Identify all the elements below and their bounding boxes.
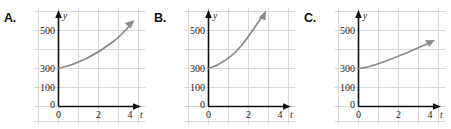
panel-a: A. — [0, 0, 150, 129]
y-tick-0: 0 — [50, 99, 55, 110]
x-tick-0: 0 — [356, 109, 361, 120]
panel-b-plot: 500 300 100 0 0 2 4 y t — [184, 7, 296, 125]
x-axis-label: t — [440, 110, 443, 120]
y-tick-100: 100 — [190, 82, 205, 93]
x-tick-4: 4 — [428, 109, 433, 120]
x-axis-arrowhead — [283, 103, 291, 109]
y-tick-300: 300 — [190, 63, 205, 74]
y-tick-300: 300 — [340, 63, 355, 74]
panel-a-label: A. — [4, 11, 16, 25]
y-tick-500: 500 — [40, 25, 55, 36]
curve-a-arrowhead — [125, 20, 135, 29]
axes — [59, 15, 136, 107]
axes — [359, 15, 436, 107]
x-axis-arrowhead — [433, 103, 441, 109]
x-tick-2: 2 — [246, 109, 251, 120]
y-tick-500: 500 — [340, 25, 355, 36]
x-axis-label: t — [140, 110, 143, 120]
curve-b — [209, 17, 263, 69]
y-tick-0: 0 — [350, 99, 355, 110]
panel-b: B. — [150, 0, 300, 129]
y-tick-0: 0 — [200, 99, 205, 110]
curve-c — [359, 44, 429, 69]
three-graph-figure: A. — [0, 0, 451, 129]
x-axis-label: t — [290, 110, 293, 120]
panel-c: C. — [300, 0, 450, 129]
y-tick-100: 100 — [40, 82, 55, 93]
y-axis-label: y — [62, 11, 68, 21]
x-tick-2: 2 — [396, 109, 401, 120]
panel-c-plot: 500 300 100 0 0 2 4 y t — [334, 7, 446, 125]
y-axis-label: y — [212, 11, 218, 21]
y-axis-label: y — [362, 11, 368, 21]
x-tick-0: 0 — [56, 109, 61, 120]
x-axis-arrowhead — [133, 103, 141, 109]
x-tick-4: 4 — [278, 109, 283, 120]
y-tick-500: 500 — [190, 25, 205, 36]
panel-b-label: B. — [154, 11, 166, 25]
axes — [209, 15, 286, 107]
y-tick-300: 300 — [40, 63, 55, 74]
x-tick-0: 0 — [206, 109, 211, 120]
panel-a-plot: 500 300 100 0 0 2 4 y t — [34, 7, 146, 125]
x-tick-4: 4 — [128, 109, 133, 120]
panel-c-label: C. — [304, 11, 316, 25]
y-tick-100: 100 — [340, 82, 355, 93]
x-tick-2: 2 — [96, 109, 101, 120]
